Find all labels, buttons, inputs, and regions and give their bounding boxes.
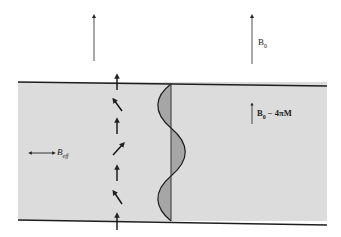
label-sub: eff [63, 153, 69, 159]
label-suffix: − 4πM [266, 108, 292, 118]
external-field-label: B0 [258, 38, 267, 49]
in-plane-field-label: Beff [57, 148, 69, 159]
label-sub: 0 [264, 43, 267, 49]
internal-field-label: B0 − 4πM [257, 109, 292, 120]
